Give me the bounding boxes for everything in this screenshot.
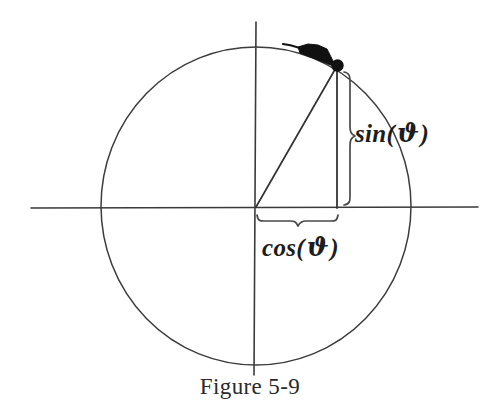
cosine-label: cos(ϑ): [262, 232, 339, 262]
horizontal-curly-brace-icon: [257, 215, 338, 226]
figure-caption: Figure 5-9: [0, 374, 500, 400]
theta-symbol-sine: ϑ: [395, 118, 420, 148]
theta-symbol-cosine: ϑ: [305, 232, 330, 262]
sine-close-paren: ): [420, 120, 429, 147]
cosine-close-paren: ): [330, 234, 339, 261]
y-axis: [254, 22, 256, 375]
arrowhead-icon: [298, 44, 336, 67]
figure-page: sin(ϑ) cos(ϑ) Figure 5-9: [0, 0, 500, 408]
point-dot-icon: [331, 59, 343, 71]
unit-circle-diagram: [0, 0, 500, 408]
radius-segment: [256, 66, 337, 207]
sine-label: sin(ϑ): [355, 118, 429, 148]
sine-function-text: sin(: [355, 120, 395, 147]
cosine-function-text: cos(: [262, 234, 305, 261]
vertical-curly-brace-icon: [344, 72, 355, 205]
